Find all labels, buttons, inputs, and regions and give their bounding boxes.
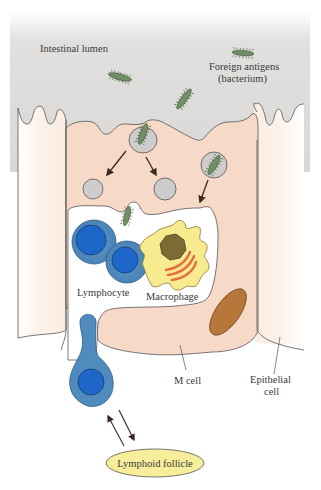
label-epithelial: Epithelial — [250, 374, 291, 385]
vesicle — [83, 179, 103, 199]
label-m-cell: M cell — [174, 375, 201, 386]
label-lymphoid-follicle: Lymphoid follicle — [117, 458, 193, 469]
m-cell-diagram: Intestinal lumen Foreign antigens (bacte… — [0, 0, 321, 490]
epithelial-cell-right — [254, 103, 304, 350]
label-macrophage: Macrophage — [146, 291, 199, 302]
vesicle — [154, 178, 176, 200]
arrow-to-mucosa — [108, 416, 124, 446]
label-epithelial-cell: cell — [264, 386, 279, 397]
epithelial-cell-left — [18, 106, 66, 338]
label-foreign-antigens: Foreign antigens — [209, 61, 279, 72]
label-bacterium: (bacterium) — [218, 73, 267, 85]
label-lymphocyte: Lymphocyte — [77, 287, 130, 298]
label-intestinal-lumen: Intestinal lumen — [40, 43, 109, 54]
arrow-to-follicle — [119, 410, 134, 440]
